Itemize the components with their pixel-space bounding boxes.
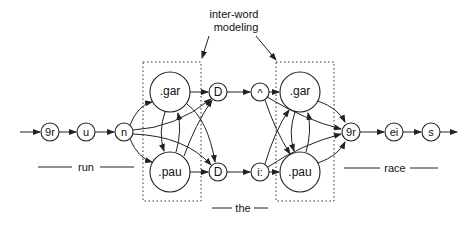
svg-text:D: D [214,85,223,99]
word-network-diagram: 9r u n .gar .pau D D ^ i: .gar .pau [0,0,473,226]
svg-text:^: ^ [257,87,263,99]
svg-text:s: s [428,126,434,138]
edge-rgar-rpau [291,112,295,151]
svg-text:.pau: .pau [288,165,311,179]
node-left-pau: .pau [150,152,190,192]
svg-text:.gar: .gar [160,84,181,98]
edge-n-pau [130,139,152,162]
svg-text:n: n [121,126,127,138]
word-label-race: race [384,162,405,174]
word-label-run: run [78,161,94,173]
svg-text:9r: 9r [346,126,356,138]
node-race-ei: ei [385,123,403,141]
svg-text:.pau: .pau [158,165,181,179]
node-race-9r: 9r [342,123,360,141]
svg-text:D: D [214,165,223,179]
node-right-pau: .pau [280,152,320,192]
node-the-caret: ^ [251,83,269,101]
annotation-line2: modeling [214,21,259,33]
node-race-s: s [422,123,440,141]
edge-lpau-lgar [176,113,180,152]
svg-text:u: u [83,126,89,138]
svg-text:i:: i: [257,166,263,178]
node-the-i: i: [251,163,269,181]
node-the-D-bottom: D [209,163,227,181]
node-run-9r: 9r [41,123,59,141]
svg-text:ei: ei [390,126,399,138]
node-run-n: n [115,123,133,141]
annotation-line1: inter-word [210,8,259,20]
node-the-D-top: D [209,83,227,101]
edge-rgar-9r [318,101,345,122]
svg-text:9r: 9r [45,126,55,138]
edge-rpau-9r [318,142,345,163]
edge-lgar-lpau [161,112,165,151]
svg-text:.gar: .gar [290,84,311,98]
annotation-pointer-left [202,36,209,58]
node-right-gar: .gar [280,72,320,112]
node-left-gar: .gar [150,72,190,112]
annotation-pointer-right [256,36,276,60]
node-run-u: u [77,123,95,141]
word-label-the: the [235,202,250,214]
edge-n-gar [130,102,152,125]
